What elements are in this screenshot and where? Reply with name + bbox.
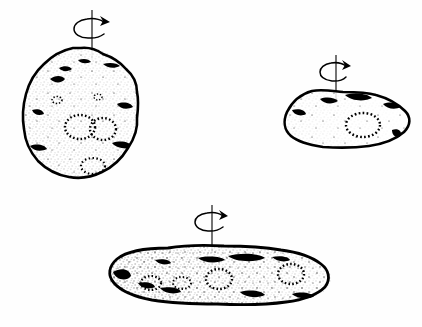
asteroid-figure-canvas [0,0,422,327]
asteroid-rotation-figure: Rotating asteroids diagram Line-art illu… [0,0,422,327]
